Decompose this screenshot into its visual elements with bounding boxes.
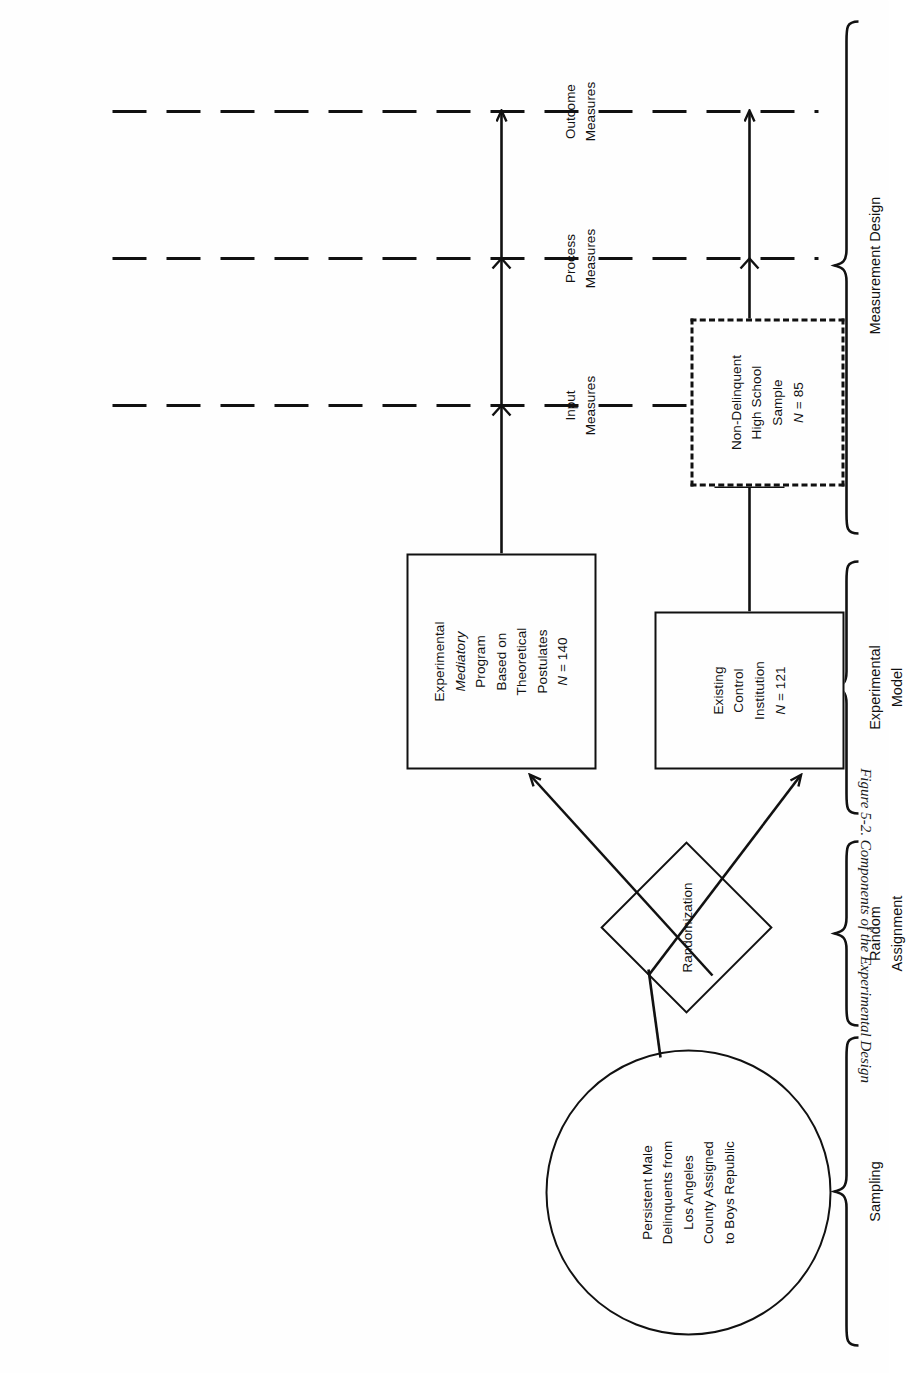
bracket-expmodel-line-1: Model — [886, 587, 908, 787]
sampling-line-3: County Assigned — [698, 1140, 719, 1244]
experimental-line-1: Mediatory — [450, 621, 471, 701]
bracket-random-line-1: Assignment — [886, 833, 908, 1033]
nondelinquent-sample-box: Non-Delinquent High School Sample N = 85 — [690, 318, 844, 486]
experimental-n-symbol: N — [554, 675, 569, 685]
control-n-equals: = — [772, 689, 787, 701]
nondelinquent-line-0: Non-Delinquent — [726, 354, 747, 449]
experimental-n-label: N = 140 — [552, 621, 573, 701]
nondelinquent-n-equals: = — [790, 397, 805, 409]
control-n-symbol: N — [772, 704, 787, 714]
measure-label-input: Input Measures — [560, 355, 601, 455]
experimental-line-0: Experimental — [429, 621, 450, 701]
measure-label-outcome: Outcome Measures — [560, 61, 601, 161]
experimental-n-value: 140 — [554, 637, 569, 660]
sampling-line-2: Los Angeles — [678, 1140, 699, 1244]
control-box-text: Existing Control Institution N = 121 — [708, 661, 790, 720]
experimental-line-2: Program — [470, 621, 491, 701]
sampling-line-1: Delinquents from — [657, 1140, 678, 1244]
sampling-line-0: Persistent Male — [637, 1140, 658, 1244]
measure-process-line-0: Process — [560, 208, 580, 308]
nondelinquent-box-text: Non-Delinquent High School Sample N = 85 — [726, 354, 808, 449]
randomization-diamond-node: Randomization — [600, 841, 772, 1013]
measure-input-line-1: Measures — [580, 355, 600, 455]
sampling-line-4: to Boys Republic — [719, 1140, 740, 1244]
measure-outcome-line-0: Outcome — [560, 61, 580, 161]
control-line-1: Control — [728, 661, 749, 720]
sampling-circle-text: Persistent Male Delinquents from Los Ang… — [637, 1140, 740, 1244]
nondelinquent-line-2: Sample — [767, 354, 788, 449]
nondelinquent-n-value: 85 — [790, 382, 805, 397]
nondelinquent-line-1: High School — [746, 354, 767, 449]
bracket-label-measurement-design: Measurement Design — [864, 165, 886, 365]
control-n-value: 121 — [772, 666, 787, 689]
bracket-expmodel-line-0: Experimental — [864, 587, 886, 787]
experimental-program-box: Experimental Mediatory Program Based on … — [406, 553, 596, 769]
control-line-0: Existing — [708, 661, 729, 720]
figure-caption: Figure 5-2. Components of the Experiment… — [858, 768, 875, 1083]
nondelinquent-n-symbol: N — [790, 413, 805, 423]
measure-input-line-0: Input — [560, 355, 580, 455]
control-line-2: Institution — [749, 661, 770, 720]
experimental-box-text: Experimental Mediatory Program Based on … — [429, 621, 573, 701]
experimental-line-5: Postulates — [532, 621, 553, 701]
experimental-line-3: Based on — [491, 621, 512, 701]
bracket-label-experimental-model: Experimental Model — [864, 587, 908, 787]
experimental-line-4: Theoretical — [511, 621, 532, 701]
randomization-label: Randomization — [600, 841, 772, 1013]
bracket-measdesign-line-0: Measurement Design — [864, 165, 886, 365]
experimental-n-equals: = — [554, 660, 569, 672]
control-n-label: N = 121 — [770, 661, 791, 720]
measure-label-process: Process Measures — [560, 208, 601, 308]
control-institution-box: Existing Control Institution N = 121 — [654, 611, 844, 769]
measure-process-line-1: Measures — [580, 208, 600, 308]
measure-outcome-line-1: Measures — [580, 61, 600, 161]
caption-wrap: Figure 5-2. Components of the Experiment… — [842, 833, 882, 1333]
nondelinquent-n-label: N = 85 — [788, 354, 809, 449]
sampling-circle-node: Persistent Male Delinquents from Los Ang… — [545, 1049, 831, 1335]
